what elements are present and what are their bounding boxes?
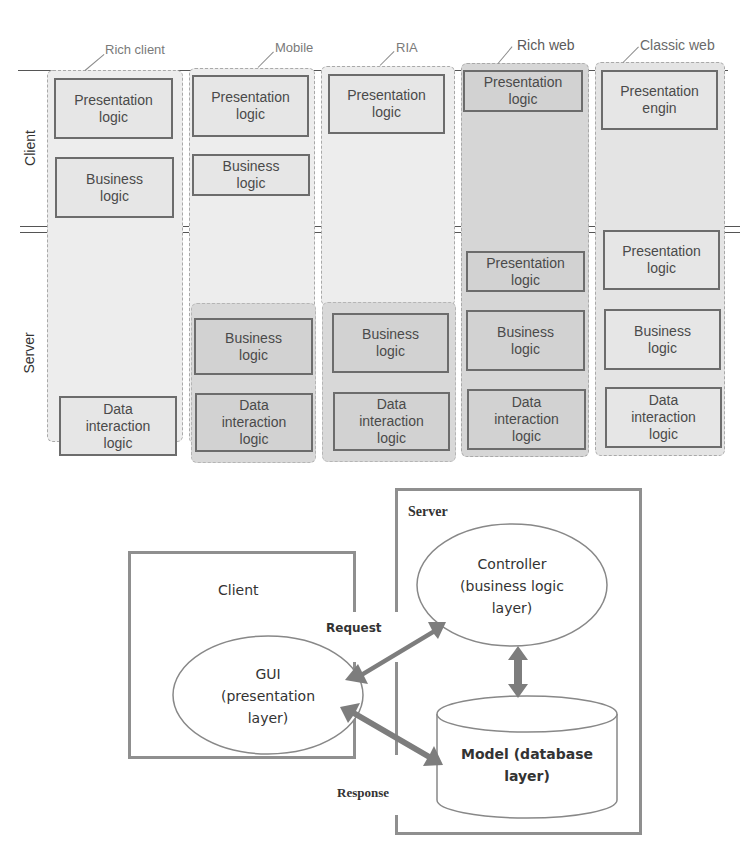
diagram-shapes [0, 0, 747, 854]
controller-label: Controller (business logic layer) [427, 553, 597, 619]
response-arrow-icon [340, 703, 443, 766]
request-arrow-icon [345, 622, 446, 684]
gui-label: GUI (presentation layer) [186, 663, 350, 729]
model-label: Model (database layer) [442, 743, 612, 787]
controller-model-arrow-icon [508, 646, 528, 698]
